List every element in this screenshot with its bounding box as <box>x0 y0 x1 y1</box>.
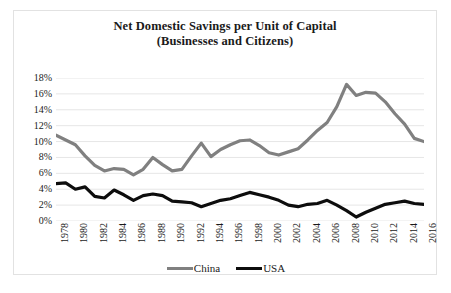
x-axis-tick-label: 2010 <box>370 223 380 243</box>
x-axis-tick-label: 2012 <box>389 223 399 243</box>
y-axis-tick-label: 12% <box>34 121 52 131</box>
y-axis-tick-label: 18% <box>34 73 52 83</box>
x-axis: 1978198019821984198619881990199219941996… <box>56 223 424 265</box>
gridlines <box>56 78 424 221</box>
x-axis-tick-label: 2008 <box>351 223 361 243</box>
x-axis-tick-label: 2002 <box>292 223 302 243</box>
chart-container: Net Domestic Savings per Unit of Capital… <box>13 10 437 275</box>
y-axis-tick-label: 16% <box>34 89 52 99</box>
legend-color-swatch <box>167 267 193 270</box>
x-axis-tick-label: 1998 <box>254 223 264 243</box>
legend-label: China <box>194 263 220 274</box>
chart-title-line-2: (Businesses and Citizens) <box>14 34 436 49</box>
chart-title: Net Domestic Savings per Unit of Capital… <box>14 19 436 49</box>
series-line-usa <box>56 183 424 217</box>
x-axis-tick-label: 1984 <box>118 223 128 243</box>
x-axis-tick-label: 2006 <box>331 223 341 243</box>
y-axis-tick-label: 10% <box>34 137 52 147</box>
x-axis-tick-label: 2000 <box>273 223 283 243</box>
x-axis-tick-label: 1988 <box>157 223 167 243</box>
x-axis-tick-label: 1990 <box>176 223 186 243</box>
plot-area <box>56 78 424 221</box>
y-axis-tick-label: 0% <box>39 216 52 226</box>
x-axis-tick-label: 1980 <box>79 223 89 243</box>
y-axis-tick-label: 6% <box>39 168 52 178</box>
legend-item[interactable]: USA <box>236 263 285 274</box>
page-caption-clipped <box>14 286 439 293</box>
y-axis-tick-label: 4% <box>39 184 52 194</box>
x-axis-tick-label: 1982 <box>99 223 109 243</box>
x-axis-tick-label: 2004 <box>312 223 322 243</box>
chart-title-line-1: Net Domestic Savings per Unit of Capital <box>113 19 336 33</box>
y-axis: 0%2%4%6%8%10%12%14%16%18% <box>14 78 54 221</box>
x-axis-tick-label: 1996 <box>234 223 244 243</box>
x-axis-tick-label: 1992 <box>196 223 206 243</box>
x-axis-tick-label: 1986 <box>137 223 147 243</box>
y-axis-tick-label: 2% <box>39 200 52 210</box>
series-line-china <box>56 84 424 175</box>
legend-label: USA <box>263 263 285 274</box>
legend-color-swatch <box>236 267 262 270</box>
legend-item[interactable]: China <box>167 263 220 274</box>
chart-legend: ChinaUSA <box>14 263 438 274</box>
y-axis-tick-label: 14% <box>34 105 52 115</box>
x-axis-tick-label: 2016 <box>428 223 438 243</box>
x-axis-tick-label: 1978 <box>60 223 70 243</box>
y-axis-tick-label: 8% <box>39 152 52 162</box>
line-chart-svg <box>56 78 424 221</box>
x-axis-tick-label: 1994 <box>215 223 225 243</box>
x-axis-tick-label: 2014 <box>409 223 419 243</box>
